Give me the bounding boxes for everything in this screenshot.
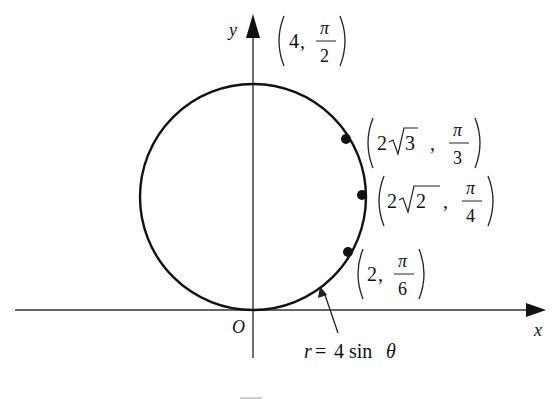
svg-text:π: π [320, 18, 330, 38]
curve-equation-label: r = 4 sin θ [304, 340, 396, 362]
x-axis [15, 303, 546, 317]
svg-text:4: 4 [289, 30, 299, 52]
svg-text:π: π [398, 251, 408, 271]
polar-diagram: x y O 4 , π 2 2 3 , π 3 2 2 , [0, 0, 555, 399]
svg-text:,: , [430, 132, 435, 154]
y-axis-label: y [227, 20, 237, 40]
svg-text:4: 4 [466, 206, 475, 226]
svg-text:6: 6 [398, 279, 407, 299]
x-axis-label: x [533, 320, 542, 340]
label-point-2root3-pi3: 2 3 , π 3 [368, 118, 480, 168]
point-2root2-pi4 [357, 190, 367, 200]
svg-text:3: 3 [453, 148, 462, 168]
label-point-4-pi2: 4 , π 2 [279, 16, 345, 66]
svg-text:2: 2 [377, 132, 387, 154]
svg-text:2: 2 [367, 263, 377, 285]
y-axis-arrow-icon [246, 14, 260, 38]
svg-text:r: r [304, 340, 312, 362]
svg-text:2: 2 [387, 190, 397, 212]
svg-text:,: , [300, 30, 305, 52]
origin-label: O [232, 317, 245, 337]
svg-text:π: π [466, 178, 476, 198]
label-point-2-pi6: 2 , π 6 [358, 249, 424, 299]
y-axis [246, 14, 260, 358]
svg-text:=: = [315, 340, 326, 362]
svg-text:4 sin: 4 sin [334, 340, 372, 362]
svg-text:π: π [453, 120, 463, 140]
svg-text:2: 2 [320, 46, 329, 66]
label-point-2root2-pi4: 2 2 , π 4 [379, 176, 493, 226]
svg-text:θ: θ [386, 340, 396, 362]
point-2-pi6 [343, 247, 353, 257]
point-2root3-pi3 [341, 134, 351, 144]
svg-text:3: 3 [405, 132, 415, 154]
svg-text:2: 2 [416, 190, 426, 212]
svg-text:,: , [378, 263, 383, 285]
svg-text:,: , [443, 190, 448, 212]
x-axis-arrow-icon [526, 303, 546, 317]
